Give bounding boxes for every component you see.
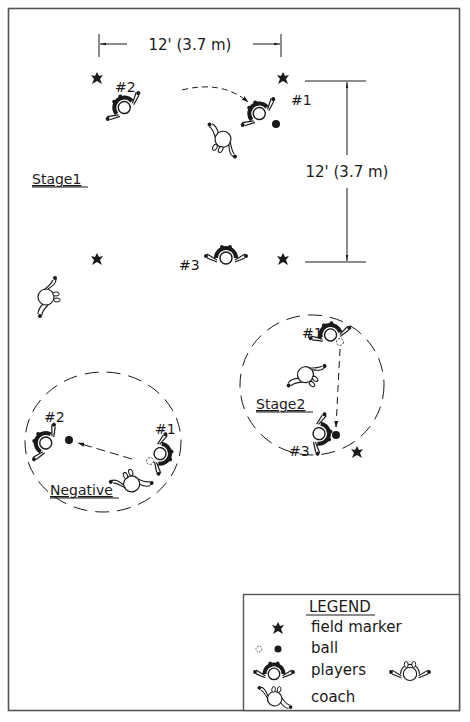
ball-origin-icon — [337, 339, 344, 346]
pass-arrow — [78, 443, 132, 459]
ball-origin-icon — [147, 458, 154, 465]
stage2-group: #1 Stage2 #3 — [240, 315, 384, 459]
player-icon — [309, 411, 335, 458]
stage1-title: Stage1 — [32, 171, 81, 187]
field-marker-icon — [351, 446, 363, 458]
legend-label-field-marker: field marker — [311, 618, 402, 636]
diagram-canvas: 12' (3.7 m) 12' (3.7 m) #2 #1 Stage1 #3 … — [0, 0, 470, 722]
player-icon — [204, 245, 248, 264]
coach-icon — [38, 276, 60, 318]
ball-icon — [332, 431, 340, 439]
player-label: #1 — [291, 92, 312, 108]
coach-icon — [286, 353, 330, 399]
player-icon — [150, 431, 176, 478]
stage1-group: #2 #1 Stage1 #3 — [32, 72, 312, 273]
negative-group: #2 #1 Negative — [23, 372, 181, 512]
stage2-title: Stage2 — [256, 396, 305, 412]
legend: LEGEND field marker ball players coach — [244, 595, 460, 711]
negative-title: Negative — [50, 482, 113, 498]
pass-arrow — [336, 349, 340, 427]
legend-label-ball: ball — [311, 639, 338, 657]
player-label: #3 — [179, 257, 200, 273]
field-marker-icon — [91, 253, 103, 265]
player-label: #2 — [115, 79, 136, 95]
ball-icon — [275, 646, 282, 653]
ball-icon — [272, 120, 280, 128]
ball-icon — [65, 436, 73, 444]
field-marker-icon — [277, 72, 289, 84]
field-marker-icon — [277, 253, 289, 265]
vertical-dimension: 12' (3.7 m) — [305, 81, 388, 262]
legend-label-players: players — [311, 661, 366, 679]
horizontal-dimension: 12' (3.7 m) — [99, 34, 281, 57]
player-label: #2 — [44, 409, 65, 425]
coach-icon — [198, 122, 245, 162]
field-marker-icon — [91, 72, 103, 84]
vertical-dimension-label: 12' (3.7 m) — [306, 163, 389, 181]
legend-title: LEGEND — [309, 598, 371, 616]
player-label: #3 — [289, 443, 310, 459]
pass-arrow — [182, 87, 248, 102]
horizontal-dimension-label: 12' (3.7 m) — [149, 36, 232, 54]
coach-icon — [107, 463, 154, 498]
legend-label-coach: coach — [311, 688, 355, 706]
